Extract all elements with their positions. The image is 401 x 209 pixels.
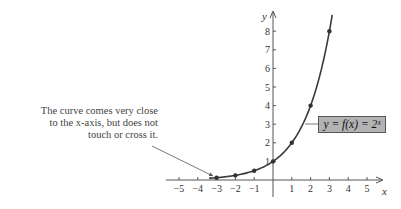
- x-tick-label: 1: [289, 183, 294, 194]
- annotation-line-3: touch or cross it.: [10, 129, 158, 141]
- y-tick-label: 8: [265, 26, 270, 37]
- y-tick-label: 4: [265, 100, 270, 111]
- y-tick-label: 2: [265, 137, 270, 148]
- annotation-line-2: to the x-axis, but does not: [10, 117, 158, 129]
- x-tick-label: −3: [211, 183, 222, 194]
- data-point: [271, 159, 275, 163]
- y-ticks: 12345678: [265, 26, 276, 167]
- x-tick-label: −5: [174, 183, 185, 194]
- x-tick-label: 5: [365, 183, 370, 194]
- data-point: [214, 175, 218, 179]
- y-tick-label: 3: [265, 119, 270, 130]
- x-tick-label: 4: [346, 183, 351, 194]
- function-label: y = f(x) = 2ˣ: [318, 116, 386, 133]
- y-tick-label: 5: [265, 82, 270, 93]
- y-tick-label: 6: [265, 63, 270, 74]
- y-axis-label: y: [261, 10, 267, 22]
- data-point: [290, 141, 294, 145]
- x-tick-label: −4: [192, 183, 203, 194]
- x-tick-label: 3: [327, 183, 332, 194]
- annotation-pointer: [152, 146, 213, 176]
- x-tick-label: 2: [308, 183, 313, 194]
- asymptote-annotation: The curve comes very close to the x-axis…: [10, 105, 158, 141]
- annotation-line-1: The curve comes very close: [10, 105, 158, 117]
- data-point: [308, 103, 312, 107]
- y-tick-label: 7: [265, 44, 270, 55]
- data-point: [327, 29, 331, 33]
- x-tick-label: −2: [230, 183, 241, 194]
- data-point: [233, 173, 237, 177]
- x-tick-label: −1: [249, 183, 260, 194]
- exponential-curve: [209, 15, 332, 178]
- x-axis-label: x: [381, 185, 387, 197]
- data-point: [252, 169, 256, 173]
